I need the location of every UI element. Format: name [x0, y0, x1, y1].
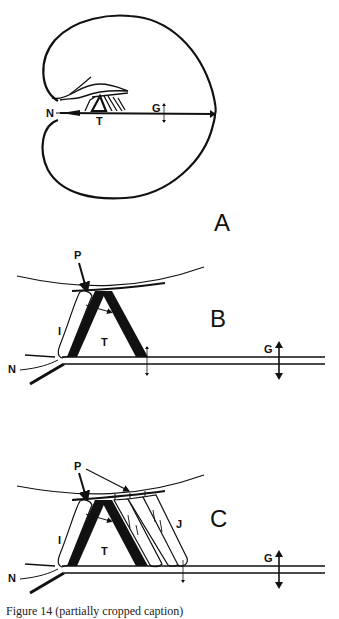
label-n: N: [8, 572, 16, 584]
outer-pillar: [101, 291, 148, 357]
panel-b: P I T N G B: [8, 249, 325, 384]
label-t: T: [96, 115, 103, 127]
overlying-membrane: [17, 267, 204, 286]
label-n: N: [8, 363, 16, 375]
label-t: T: [101, 545, 108, 557]
inner-fold: [52, 84, 128, 100]
overlying-membrane: [17, 475, 204, 494]
label-p: P: [74, 249, 81, 261]
panel-label-c: C: [210, 505, 227, 532]
panel-c: P J I T N G C: [8, 460, 325, 593]
label-i: I: [58, 325, 61, 337]
label-i: I: [58, 534, 61, 546]
label-t: T: [101, 336, 108, 348]
panel-label-b: B: [210, 305, 226, 332]
label-j: J: [176, 518, 182, 530]
midline: [60, 113, 215, 114]
nerve-fiber: [30, 573, 64, 593]
label-g: G: [264, 552, 273, 564]
panel-a: N T G A: [43, 16, 230, 236]
label-p: P: [74, 460, 81, 472]
label-n: N: [46, 107, 54, 119]
panel-label-a: A: [214, 209, 230, 236]
basilar-membrane: [62, 566, 325, 573]
tunnel-structure: [92, 96, 106, 111]
lower-lobe-outline: [43, 114, 215, 198]
figure-caption: Figure 14 (partially cropped caption): [6, 604, 336, 619]
nerve-fiber: [30, 364, 64, 384]
label-g: G: [152, 102, 161, 114]
label-g: G: [264, 343, 273, 355]
basilar-membrane: [62, 357, 325, 364]
